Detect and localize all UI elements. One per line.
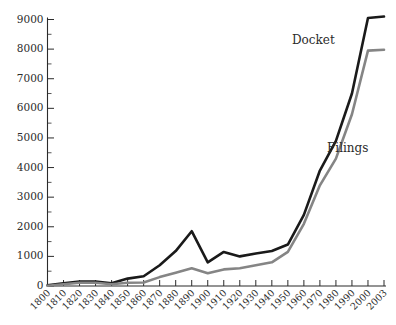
y-tick-label: 2000 xyxy=(17,220,44,232)
y-tick-label: 9000 xyxy=(17,13,44,25)
y-tick-label: 4000 xyxy=(17,161,44,173)
y-tick-label: 3000 xyxy=(17,190,44,202)
y-tick-label: 5000 xyxy=(17,131,44,143)
y-axis: 0100020003000400050006000700080009000 xyxy=(17,13,54,292)
series-label-docket: Docket xyxy=(292,33,335,47)
series-line-filings xyxy=(48,50,385,286)
y-tick-label: 1000 xyxy=(17,249,44,261)
series-label-filings: Filings xyxy=(327,141,368,155)
line-chart: 0100020003000400050006000700080009000 18… xyxy=(0,0,396,325)
y-tick-label: 6000 xyxy=(17,101,44,113)
chart-container: 0100020003000400050006000700080009000 18… xyxy=(0,0,396,325)
x-axis: 1800181018201830184018501860187018801890… xyxy=(28,280,389,312)
y-tick-label: 7000 xyxy=(17,72,44,84)
y-tick-label: 8000 xyxy=(17,42,44,54)
